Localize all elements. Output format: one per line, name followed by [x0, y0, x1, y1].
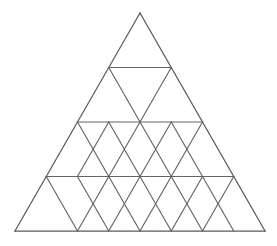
figure-canvas: Subdivided equilateral triangle A large … — [0, 0, 277, 246]
diagram-background — [0, 0, 277, 246]
subdivided-triangle-diagram — [0, 0, 277, 246]
